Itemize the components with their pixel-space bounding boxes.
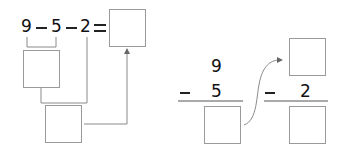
term-2: 2: [80, 18, 91, 35]
step1-minus-sign: [180, 92, 190, 94]
subtraction-diagram: 9 5 2 9 5 2: [0, 0, 343, 152]
step2-top-box[interactable]: [289, 38, 326, 76]
step1-subtrahend-5: 5: [211, 83, 222, 100]
intermediate-box-1[interactable]: [23, 50, 60, 88]
minus-sign: [36, 27, 47, 29]
intermediate-box-2[interactable]: [45, 105, 82, 143]
term-9: 9: [21, 18, 32, 35]
minus-sign: [66, 27, 77, 29]
term-5: 5: [51, 18, 62, 35]
step1-top-9: 9: [211, 58, 222, 75]
equals-sign-bottom: [94, 30, 106, 32]
answer-box[interactable]: [109, 9, 146, 47]
step1-result-box[interactable]: [204, 106, 241, 144]
step2-result-box[interactable]: [289, 106, 326, 144]
step2-subtrahend-2: 2: [300, 83, 311, 100]
step2-minus-sign: [265, 92, 275, 94]
equals-sign-top: [94, 24, 106, 26]
